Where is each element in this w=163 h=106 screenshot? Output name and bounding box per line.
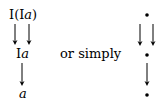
node-dot-icon xyxy=(145,13,149,17)
arrow-diagram xyxy=(0,0,163,106)
node-dot-icon xyxy=(145,53,149,57)
left-arrows xyxy=(13,24,32,86)
node-dot-icon xyxy=(145,93,149,97)
right-arrows xyxy=(138,13,156,97)
